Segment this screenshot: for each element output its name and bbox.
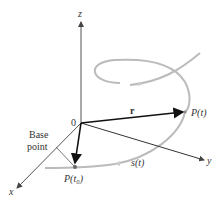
curve-back bbox=[95, 60, 190, 112]
point-p-t0 bbox=[73, 165, 77, 169]
y-axis-label: y bbox=[206, 155, 212, 166]
p-t-label: P(t) bbox=[190, 107, 207, 119]
point-p-t bbox=[183, 110, 186, 113]
space-curve-diagram: z x y 0 r P(t) P(t₀) Base point s(t) bbox=[0, 0, 223, 200]
curve-front bbox=[45, 112, 185, 168]
base-point-label-line2: point bbox=[27, 141, 48, 152]
curve-upper-tail bbox=[130, 53, 200, 85]
base-point-pointer bbox=[56, 147, 74, 166]
arc-length-label: s(t) bbox=[131, 157, 145, 169]
z-axis-label: z bbox=[77, 8, 82, 19]
origin-label: 0 bbox=[71, 117, 76, 128]
y-axis bbox=[81, 123, 204, 160]
p-t0-label: P(t₀) bbox=[63, 173, 84, 185]
base-point-label-line1: Base bbox=[29, 129, 49, 140]
r-vector-label: r bbox=[130, 105, 135, 116]
x-axis-label: x bbox=[8, 186, 14, 197]
base-vector bbox=[75, 123, 81, 163]
